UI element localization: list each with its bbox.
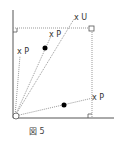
figure-diagram: x U x P x P x P 図 5 [0,0,123,146]
ray-to-u [15,19,74,116]
ray-to-p-left [15,56,20,116]
right-angle-mark-bottom [88,114,92,118]
label-p-upper: x P [49,30,61,39]
figure-caption: 図 5 [29,127,45,136]
ray-to-p-right [15,98,93,116]
right-angle-mark-top-left [13,28,17,32]
origin-marker [13,113,19,119]
point-upper [43,46,48,51]
label-u: x U [74,13,87,22]
label-p-left: x P [17,47,29,56]
point-lower [62,103,67,108]
square-marker-corner [89,26,94,31]
label-p-right: x P [92,93,104,102]
